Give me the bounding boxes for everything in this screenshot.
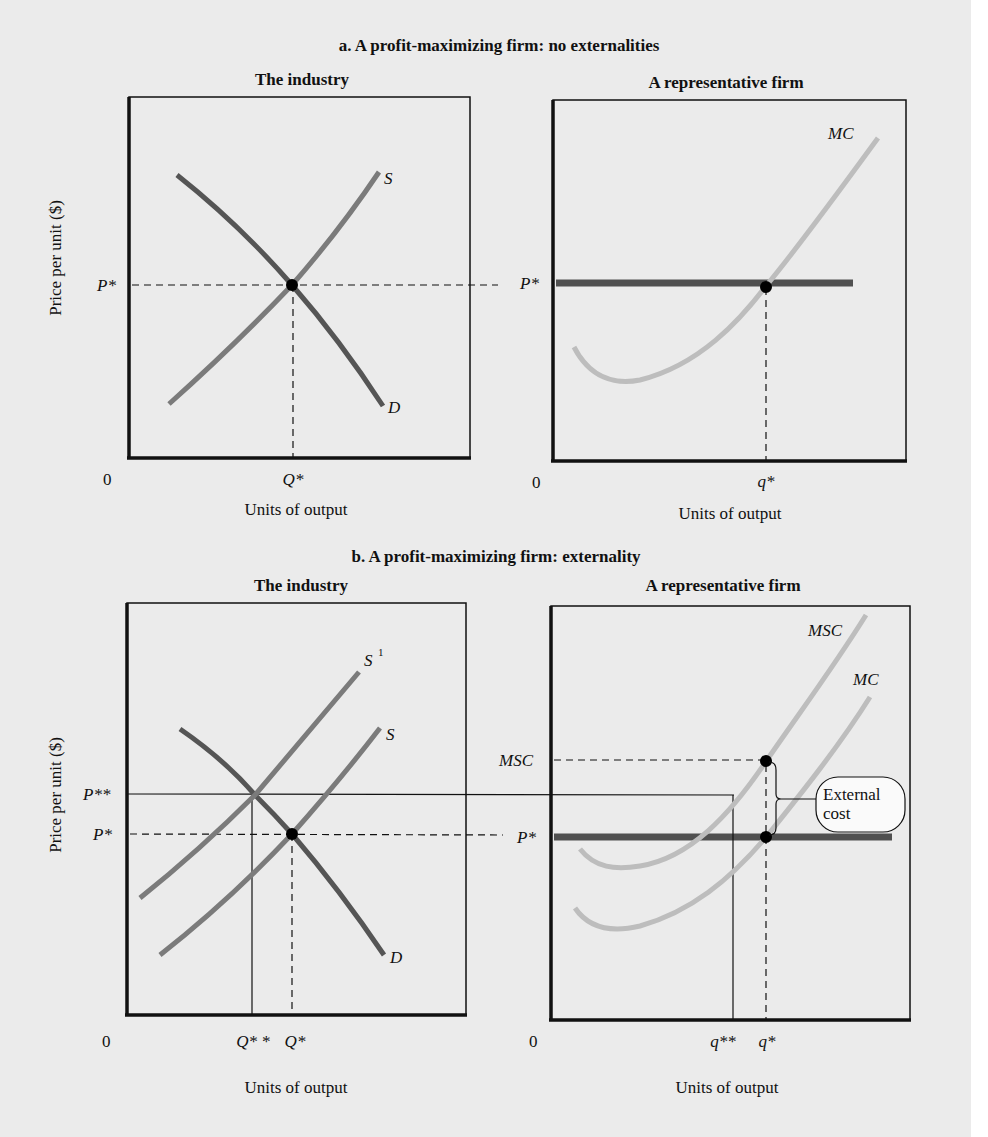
panel-b-s1-superscript: 1	[378, 646, 384, 658]
figure-page: a. A profit-maximizing firm: no external…	[0, 0, 988, 1137]
panel-b-firm-q-double-star-label: q**	[710, 1032, 736, 1051]
external-cost-label-line2: cost	[823, 804, 851, 823]
panel-a-p-star-label: P*	[96, 276, 116, 295]
panel-b-firm-p-star-label: P*	[516, 828, 536, 847]
panel-b-p-double-star-label: P**	[82, 785, 111, 804]
panel-a-firm-q-star-label: q*	[758, 472, 776, 491]
panel-b-firm-chart: A representative firm External cost MSC …	[498, 576, 911, 1097]
panel-b-industry-title: The industry	[254, 576, 348, 595]
panel-a-supply-curve	[169, 172, 379, 404]
panel-a-industry-chart: The industry Price per unit ($) S D P* 0…	[46, 70, 498, 519]
panel-b-q-double-star-label: Q* *	[236, 1032, 270, 1051]
panel-a-industry-title: The industry	[255, 70, 349, 89]
panel-b-p-star-point	[760, 831, 772, 843]
panel-a-firm-chart: A representative firm MC P* 0 q* Units o…	[519, 73, 907, 523]
panel-a-firm-x-axis-label: Units of output	[679, 504, 782, 523]
panel-b-demand-label: D	[389, 948, 403, 967]
panel-b-title: b. A profit-maximizing firm: externality	[351, 547, 641, 566]
panel-a-industry-x-axis-label: Units of output	[245, 500, 348, 519]
panel-a-mc-label: MC	[827, 124, 854, 143]
panel-a-mc-curve	[574, 138, 878, 381]
panel-a-title: a. A profit-maximizing firm: no external…	[339, 36, 660, 55]
panel-b-industry-origin: 0	[102, 1032, 111, 1051]
panel-b-industry-frame	[127, 603, 466, 1015]
panel-b-industry-x-axis-label: Units of output	[245, 1078, 348, 1097]
panel-b-p-star-label: P*	[92, 825, 112, 844]
panel-a-supply-label: S	[384, 169, 393, 188]
external-cost-label-line1: External	[823, 785, 881, 804]
panel-b-equilibrium-point	[286, 828, 298, 840]
panel-a-y-axis-label: Price per unit ($)	[46, 200, 65, 316]
panel-a-firm-title: A representative firm	[648, 73, 803, 92]
panel-b-p-star-dashed-line	[130, 834, 503, 835]
panel-b-msc-curve	[580, 615, 866, 868]
panel-a-q-star-label: Q*	[283, 470, 304, 489]
panel-b-firm-x-axis-label: Units of output	[676, 1078, 779, 1097]
panel-b-s-label: S	[386, 725, 395, 744]
panel-a-firm-equilibrium-point	[760, 281, 772, 293]
panel-b-firm-origin: 0	[529, 1032, 538, 1051]
panel-b-msc-curve-label: MSC	[807, 621, 843, 640]
panel-b-supply-s1-curve	[140, 672, 359, 898]
panel-b-msc-axis-label: MSC	[498, 751, 534, 770]
panel-a-firm-p-star-label: P*	[519, 274, 539, 293]
panel-b-p-double-star-line	[128, 794, 734, 795]
panel-a-demand-label: D	[387, 398, 401, 417]
panel-b-s1-label: S	[364, 651, 373, 670]
panel-b-q-star-label: Q*	[285, 1032, 306, 1051]
figure-svg: a. A profit-maximizing firm: no external…	[0, 0, 988, 1137]
panel-b-firm-title: A representative firm	[645, 576, 800, 595]
panel-b-mc-curve-label: MC	[852, 670, 879, 689]
panel-b-msc-point	[760, 755, 772, 767]
panel-b-y-axis-label: Price per unit ($)	[46, 737, 65, 853]
panel-a-industry-origin: 0	[103, 470, 112, 489]
panel-b-firm-q-star-label: q*	[759, 1032, 777, 1051]
panel-a-firm-origin: 0	[532, 473, 541, 492]
panel-b-supply-s-curve	[160, 728, 380, 955]
panel-a-equilibrium-point	[286, 279, 298, 291]
